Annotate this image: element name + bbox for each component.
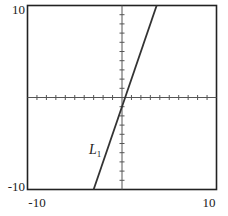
y-max-label: 10 <box>12 2 25 17</box>
x-min-label: -10 <box>28 195 45 210</box>
y-min-label: -10 <box>8 179 25 194</box>
line-label-l1: L1 <box>88 142 101 159</box>
line-graph: L1 10 -10 -10 10 <box>0 0 228 216</box>
x-max-label: 10 <box>203 195 216 210</box>
